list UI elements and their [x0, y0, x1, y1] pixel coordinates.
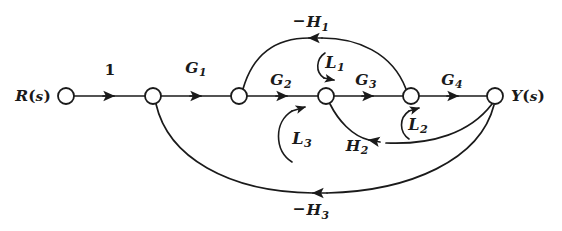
- branch-label-g2: G2: [270, 72, 291, 91]
- loop-arrow-l3: [292, 107, 305, 111]
- branch-label-g3: G3: [355, 72, 376, 91]
- branch-arrow-h2: [369, 140, 380, 142]
- node-4[interactable]: [318, 88, 334, 104]
- branch-line-h3-left: [156, 104, 313, 193]
- branch-label-h3: −H3: [293, 201, 329, 222]
- branch-label-g1: G1: [185, 60, 206, 79]
- node-label-input-r: R(s): [15, 88, 51, 104]
- loop-arrow-l2: [409, 108, 419, 111]
- node-input-r[interactable]: [58, 88, 74, 104]
- loop-arc-l1: [318, 53, 325, 78]
- branch-label-unity: 1: [105, 62, 116, 78]
- loop-arc-l3: [279, 111, 293, 162]
- branch-label-h2: H2: [346, 138, 369, 157]
- node-5[interactable]: [403, 88, 419, 104]
- branch-label-g4: G4: [441, 72, 462, 91]
- branch-line-h2-left: [330, 104, 369, 140]
- node-3[interactable]: [231, 88, 247, 104]
- loop-label-l2: L2: [408, 117, 428, 136]
- loop-label-l1: L1: [325, 55, 345, 74]
- node-2[interactable]: [145, 88, 161, 104]
- graph-canvas: [0, 0, 562, 231]
- loop-arrow-l1: [324, 78, 334, 80]
- loop-label-l3: L3: [292, 131, 312, 150]
- node-label-output-y: Y(s): [511, 88, 545, 104]
- signal-flow-graph-figure: R(s) Y(s) 1 G1 G2 G3 G4 −H1 H2 −H3 L1 L2…: [0, 0, 562, 231]
- node-output-y[interactable]: [487, 88, 503, 104]
- branch-label-h1: −H1: [293, 13, 329, 34]
